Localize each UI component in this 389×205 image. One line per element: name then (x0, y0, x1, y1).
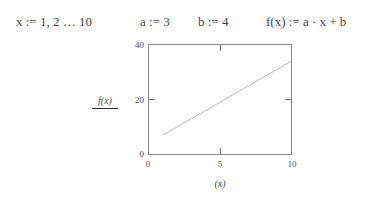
expression-a-definition[interactable]: a := 3 (140, 14, 170, 30)
y-axis-label-40: 40 (122, 40, 144, 50)
x-axis-label-5: 5 (210, 159, 230, 169)
y-axis-label-20: 20 (122, 95, 144, 105)
x-axis-label-10: 10 (282, 159, 302, 169)
plot-line-fx (149, 45, 291, 154)
expression-b-definition[interactable]: b := 4 (198, 14, 228, 30)
x-axis-caption: (x) (148, 178, 292, 189)
legend-label-fx: f(x) (88, 95, 122, 106)
expression-f-definition[interactable]: f(x) := a · x + b (266, 14, 346, 30)
legend-line-swatch (92, 108, 118, 109)
expression-row: x := 1, 2 … 10 a := 3 b := 4 f(x) := a ·… (0, 14, 389, 36)
y-axis-label-0: 0 (122, 149, 144, 159)
plot-region[interactable]: f(x) 40 20 0 0 5 10 (x) (0, 38, 389, 205)
expression-x-definition[interactable]: x := 1, 2 … 10 (16, 14, 92, 30)
plot-legend[interactable]: f(x) (88, 95, 122, 109)
x-axis-label-0: 0 (138, 159, 158, 169)
plot-frame[interactable] (148, 44, 292, 155)
